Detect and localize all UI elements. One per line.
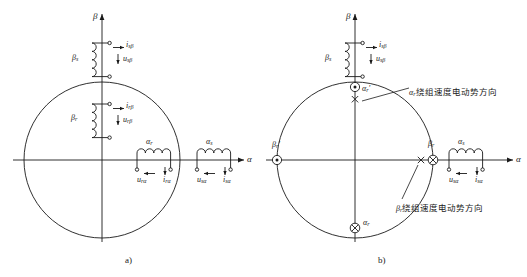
panel-a-stator-beta-voltage-label: usβ: [123, 55, 132, 63]
panel-a-stator-alpha-voltage-label: usα: [197, 176, 206, 184]
panel-b-annotation-alpha-r-emf-direction: αr绕组速度电动势方向: [409, 82, 497, 98]
panel-a-beta-axis-label: β: [93, 12, 97, 21]
panel-a-beta-arrowhead: [100, 14, 105, 20]
panel-b-stator-beta-voltage-label: usβ: [376, 55, 385, 63]
panel-b-alpha-arrowhead: [507, 158, 513, 163]
panel-a-stator-alpha-winding-label: αs: [206, 138, 213, 146]
panel-b-marker-beta-r: [428, 155, 438, 165]
panel-b-stator-alpha-winding-label: αs: [458, 138, 465, 146]
panel-b-stator-beta-coil: [345, 41, 377, 78]
panel-b-caption: b): [378, 256, 386, 265]
panel-a-rotor-alpha-winding-label: αr: [146, 138, 153, 146]
panel-b-marker-beta-r-prime-label: βr′: [272, 141, 280, 149]
panel-b-stator-alpha-voltage-label: usα: [449, 176, 458, 184]
panel-a-alpha-axis-label: α: [247, 155, 252, 164]
panel-b-alpha-axis-label: α: [516, 155, 521, 164]
panel-a-rotor-beta-current-label: irβ: [126, 102, 134, 110]
panel-b-stator-beta-current-label: isβ: [379, 41, 387, 49]
panel-a-stator-beta-current-label: isβ: [126, 41, 134, 49]
panel-a-rotor-alpha-current-label: irα: [163, 176, 171, 184]
panel-a-rotor-alpha-voltage-label: urα: [137, 176, 146, 184]
panel-b-beta-axis-label: β: [346, 12, 350, 21]
panel-a-rotor-beta-winding-label: βr: [71, 114, 77, 122]
panel-b-annotation-beta-r-emf-direction: βr绕组速度电动势方向: [396, 198, 483, 214]
panel-a-stator-alpha-coil: [195, 149, 232, 175]
panel-b-leader-line-beta: [402, 165, 418, 199]
panel-b-marker-alpha-r: [350, 223, 360, 233]
panel-a-stator-alpha-current-label: isα: [223, 176, 231, 184]
panel-b-marker-beta-r-label: βr: [428, 140, 434, 148]
panel-b-marker-alpha-r-prime: [350, 82, 359, 91]
panel-a-rotor-beta-voltage-label: urβ: [123, 116, 132, 124]
panel-b-stator-beta-winding-label: βs: [325, 54, 331, 62]
panel-a-stator-beta-coil: [92, 41, 124, 78]
panel-a-rotor-alpha-coil: [135, 149, 172, 175]
panel-b-marker-alpha-r-prime-label: αr′: [362, 85, 370, 93]
panel-b-stator-alpha-current-label: isα: [475, 176, 483, 184]
panel-b-marker-alpha-r-label: αr: [363, 219, 370, 227]
panel-a-rotor-beta-coil: [92, 102, 124, 139]
panel-b-beta-arrowhead: [353, 14, 358, 20]
panel-b-marker-beta-r-prime: [272, 155, 281, 164]
panel-a-alpha-arrowhead: [238, 158, 244, 163]
panel-b-stator-alpha-coil: [447, 149, 484, 175]
panel-a-caption: a): [125, 256, 132, 265]
panel-a-stator-beta-winding-label: βs: [72, 54, 78, 62]
figure-canvas: α β βs isβ usβ βr irβ urβ αr urα irα αs …: [0, 0, 527, 277]
diagram-vector: [0, 0, 527, 277]
